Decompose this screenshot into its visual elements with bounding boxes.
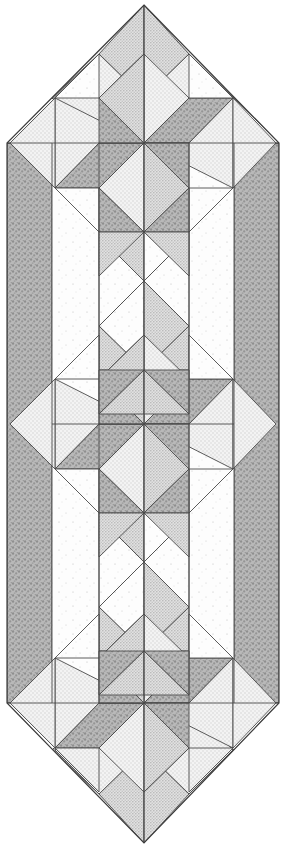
star3-corner-sw	[55, 748, 99, 792]
star1-corner-ne	[189, 54, 233, 98]
quilt-body	[7, 5, 279, 843]
star3-corner-se	[189, 748, 233, 792]
quilt-diagram	[0, 0, 286, 848]
star1-corner-nw	[55, 54, 99, 98]
quilt-diagram-stage	[0, 0, 286, 848]
